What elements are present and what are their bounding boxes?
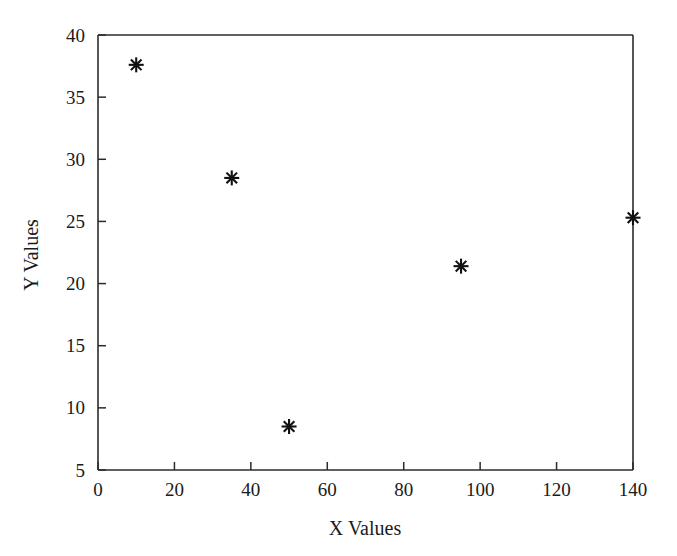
data-point-marker [454, 259, 469, 274]
y-axis-title: Y Values [20, 219, 42, 291]
y-tick-label: 20 [66, 273, 85, 294]
y-tick-label: 40 [66, 25, 85, 46]
x-tick-label: 20 [165, 479, 184, 500]
x-tick-label: 120 [542, 479, 571, 500]
y-tick-label: 25 [66, 211, 85, 232]
scatter-chart-figure: 510152025303540 020406080100120140 X Val… [0, 0, 677, 556]
data-point-marker [626, 210, 641, 225]
chart-canvas: 510152025303540 020406080100120140 X Val… [0, 0, 677, 556]
marker-core [631, 215, 636, 220]
x-tick-label: 140 [619, 479, 648, 500]
data-point-marker [224, 170, 239, 185]
marker-core [287, 424, 292, 429]
y-tick-label: 15 [66, 335, 85, 356]
x-tick-label: 80 [394, 479, 413, 500]
marker-core [229, 176, 234, 181]
data-point-marker [282, 419, 297, 434]
y-tick-label: 35 [66, 87, 85, 108]
x-tick-label: 40 [241, 479, 260, 500]
marker-core [134, 63, 139, 68]
marker-core [459, 264, 464, 269]
data-point-series [129, 57, 641, 434]
y-tick-label: 10 [66, 397, 85, 418]
x-tick-label: 0 [93, 479, 103, 500]
y-tick-label: 30 [66, 149, 85, 170]
y-tick-label: 5 [76, 460, 86, 481]
axes-frame [98, 35, 633, 470]
data-point-marker [129, 57, 144, 72]
x-axis-title: X Values [329, 517, 402, 539]
x-tick-label: 100 [466, 479, 495, 500]
x-tick-label: 60 [318, 479, 337, 500]
x-axis: 020406080100120140 [93, 462, 647, 500]
y-axis: 510152025303540 [66, 25, 106, 481]
